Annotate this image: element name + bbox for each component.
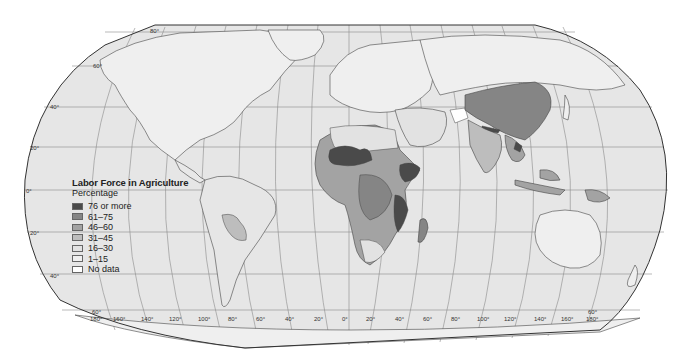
svg-text:120°: 120°: [504, 316, 517, 322]
legend-swatch: [72, 266, 83, 273]
legend-label: 61–75: [88, 212, 113, 222]
legend-swatch: [72, 255, 83, 262]
legend: Labor Force in Agriculture Percentage 76…: [72, 177, 188, 275]
legend-item-61-75: 61–75: [72, 212, 188, 223]
lat-label-60s-right: 60°: [588, 309, 598, 315]
lat-label-80n: 80°: [150, 28, 160, 34]
legend-label: 76 or more: [88, 201, 132, 211]
legend-item-1-15: 1–15: [72, 254, 188, 265]
lat-label-20n: 20°: [30, 145, 40, 151]
svg-text:100°: 100°: [198, 316, 211, 322]
legend-item-76-plus: 76 or more: [72, 201, 188, 212]
legend-swatch: [72, 203, 83, 210]
lat-label-20s: 20°: [30, 230, 40, 236]
lat-label-60n: 60°: [93, 63, 103, 69]
svg-text:180°: 180°: [90, 316, 103, 322]
legend-item-16-30: 16–30: [72, 243, 188, 254]
lat-label-0: 0°: [26, 188, 32, 194]
svg-text:180°: 180°: [586, 316, 599, 322]
legend-swatch: [72, 245, 83, 252]
lat-label-60s-left: 60°: [92, 309, 102, 315]
legend-label: No data: [88, 264, 120, 274]
svg-text:100°: 100°: [477, 316, 490, 322]
lat-label-40n: 40°: [50, 104, 60, 110]
svg-text:120°: 120°: [169, 316, 182, 322]
map-title: Labor Force in Agriculture: [72, 177, 188, 188]
world-map: 80° 60° 40° 20° 0° 20° 40° 60° 60° 180° …: [0, 0, 680, 363]
svg-text:40°: 40°: [395, 316, 405, 322]
legend-swatch: [72, 234, 83, 241]
legend-label: 1–15: [88, 254, 108, 264]
svg-text:160°: 160°: [113, 316, 126, 322]
legend-item-no-data: No data: [72, 264, 188, 275]
svg-text:160°: 160°: [561, 316, 574, 322]
svg-text:140°: 140°: [141, 316, 154, 322]
lat-label-40s: 40°: [50, 273, 60, 279]
legend-label: 16–30: [88, 243, 113, 253]
svg-text:80°: 80°: [228, 316, 238, 322]
legend-swatch: [72, 224, 83, 231]
legend-swatch: [72, 213, 83, 220]
legend-item-46-60: 46–60: [72, 222, 188, 233]
svg-text:60°: 60°: [423, 316, 433, 322]
svg-text:40°: 40°: [285, 316, 295, 322]
svg-text:20°: 20°: [314, 316, 324, 322]
legend-label: 46–60: [88, 222, 113, 232]
svg-text:80°: 80°: [451, 316, 461, 322]
legend-subtitle: Percentage: [72, 188, 188, 198]
legend-item-31-45: 31–45: [72, 233, 188, 244]
sahel-dark: [329, 146, 372, 166]
svg-text:20°: 20°: [366, 316, 376, 322]
svg-text:140°: 140°: [534, 316, 547, 322]
svg-text:60°: 60°: [256, 316, 266, 322]
legend-label: 31–45: [88, 233, 113, 243]
svg-text:0°: 0°: [342, 316, 348, 322]
